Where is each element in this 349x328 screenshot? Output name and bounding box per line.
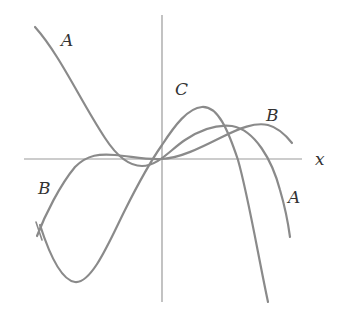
- label-a-top: A: [59, 30, 73, 50]
- label-a-right: A: [286, 187, 300, 207]
- label-b-left: B: [37, 178, 51, 198]
- label-c-top: C: [175, 79, 188, 99]
- label-b-right: B: [265, 105, 279, 125]
- x-axis-label: x: [315, 149, 325, 169]
- diagram-canvas: A A B B C x: [0, 0, 349, 328]
- curve-c: [40, 107, 268, 302]
